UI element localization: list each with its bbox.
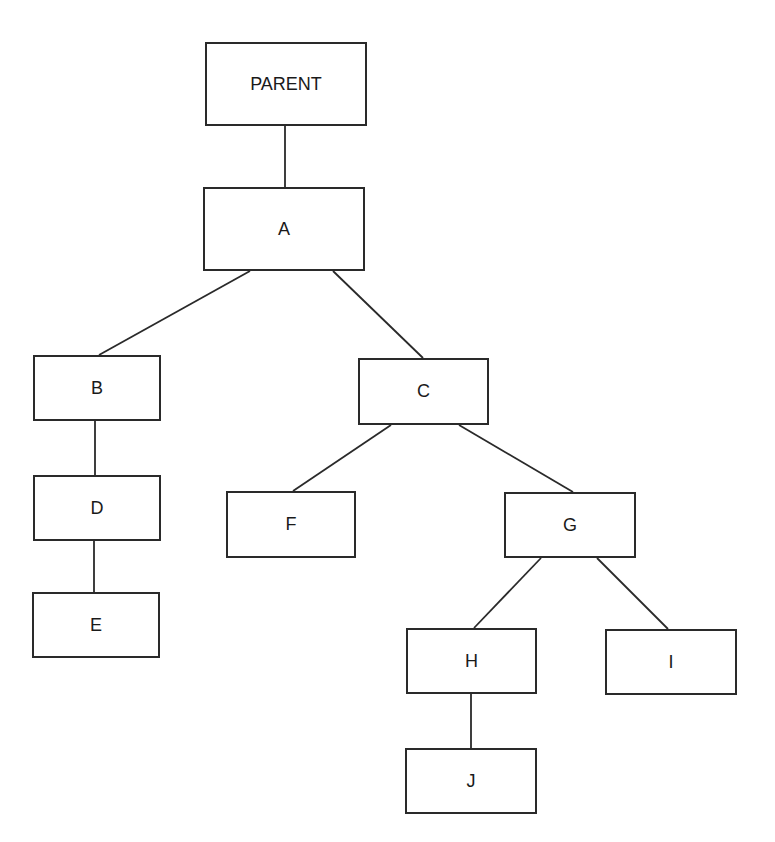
node-label: H (465, 651, 478, 672)
node-c: C (358, 358, 489, 425)
node-label: J (467, 771, 476, 792)
node-parent: PARENT (205, 42, 367, 126)
node-label: A (278, 219, 290, 240)
edge-c-f (293, 425, 391, 491)
node-label: D (91, 498, 104, 519)
node-f: F (226, 491, 356, 558)
node-e: E (32, 592, 160, 658)
node-label: I (668, 652, 673, 673)
edge-g-h (474, 558, 541, 628)
node-d: D (33, 475, 161, 541)
node-a: A (203, 187, 365, 271)
edge-a-b (99, 271, 250, 355)
node-label: B (91, 378, 103, 399)
node-label: G (563, 515, 577, 536)
edge-c-g (459, 425, 573, 492)
edge-g-i (597, 558, 668, 629)
node-h: H (406, 628, 537, 694)
node-label: E (90, 615, 102, 636)
node-label: C (417, 381, 430, 402)
node-j: J (405, 748, 537, 814)
edge-a-c (333, 271, 423, 358)
node-label: F (286, 514, 297, 535)
tree-diagram: PARENT A B C D E F G H I J (0, 0, 775, 842)
node-b: B (33, 355, 161, 421)
node-g: G (504, 492, 636, 558)
node-i: I (605, 629, 737, 695)
node-label: PARENT (250, 74, 322, 95)
